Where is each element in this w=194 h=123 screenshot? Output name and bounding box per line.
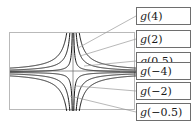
legend-label-g2: g(2)	[140, 34, 163, 45]
legend-item-g2[interactable]: g(2)	[136, 30, 191, 48]
curve-canvas	[10, 33, 136, 111]
legend-label-g4: g(4)	[140, 11, 163, 22]
legend-item-gm2[interactable]: g(−2)	[136, 82, 191, 100]
figure-root: g(4) g(2) g(0.5) g(−4) g(−2) g(−0.5)	[0, 0, 194, 123]
plot-frame	[9, 32, 135, 110]
curve-gm05	[74, 72, 136, 111]
legend-item-g4[interactable]: g(4)	[136, 7, 191, 25]
legend-item-gm05[interactable]: g(−0.5)	[136, 103, 191, 121]
legend-item-gm4[interactable]: g(−4)	[136, 62, 191, 80]
legend-label-gm2: g(−2)	[140, 86, 172, 97]
curve-gm05	[10, 33, 72, 72]
axes	[10, 33, 136, 111]
legend-label-gm4: g(−4)	[140, 66, 172, 77]
curve-g05	[74, 33, 136, 72]
legend-label-gm05: g(−0.5)	[140, 107, 182, 118]
curve-g05	[10, 72, 72, 111]
